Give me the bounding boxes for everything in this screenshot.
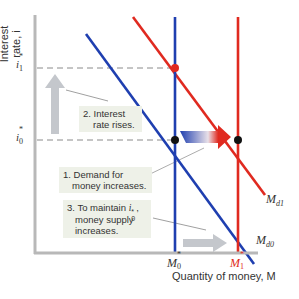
tick-m1-sup: * bbox=[240, 250, 244, 259]
y-axis-title-line1: Interest bbox=[0, 4, 10, 84]
tick-i1: i*1 bbox=[16, 58, 19, 70]
tick-m0: M*0 bbox=[167, 256, 177, 271]
point-m0-i0 bbox=[171, 136, 179, 144]
tick-i0-sub: 0 bbox=[19, 137, 23, 146]
tick-m1-base: M bbox=[230, 256, 240, 270]
note3-line3: increases. bbox=[67, 225, 147, 236]
tick-m0-sup: * bbox=[177, 250, 181, 259]
supply-increase-arrow bbox=[183, 234, 227, 252]
tick-i0: i*0 bbox=[16, 131, 19, 143]
tick-i1-sub: 1 bbox=[19, 64, 23, 73]
point-m0-i1 bbox=[171, 64, 179, 72]
tick-m0-base: M bbox=[167, 256, 177, 270]
md0-label-base: M bbox=[256, 233, 266, 247]
note-interest-rate-rises: 2. Interest rate rises. bbox=[79, 106, 142, 132]
leader-line-2 bbox=[66, 90, 108, 101]
x-axis-title: Quantity of money, M bbox=[172, 270, 276, 282]
money-market-diagram bbox=[0, 0, 299, 299]
demand-shift-arrow bbox=[180, 125, 231, 149]
md1-label-sub: d1 bbox=[276, 199, 284, 208]
tick-m1: M*1 bbox=[230, 256, 240, 271]
note3-line1: 3. To maintain i*0, bbox=[67, 202, 147, 214]
y-axis-title: Interest rate, i bbox=[0, 4, 12, 84]
note3-comma: , bbox=[136, 202, 139, 213]
note3-sub: 0 bbox=[131, 213, 135, 224]
leader-line-3 bbox=[153, 218, 206, 230]
note-money-supply-increases: 3. To maintain i*0, money supply increas… bbox=[63, 200, 151, 238]
md1-curve bbox=[133, 17, 265, 195]
note3-line1-text: 3. To maintain bbox=[67, 202, 129, 213]
md0-label-sub: d0 bbox=[266, 240, 274, 249]
note2-line2: rate rises. bbox=[83, 119, 138, 130]
tick-i1-sup: * bbox=[19, 52, 23, 61]
md0-label: Md0 bbox=[256, 233, 274, 249]
note-demand-increases: 1. Demand for money increases. bbox=[59, 167, 152, 193]
rate-rise-arrow bbox=[45, 74, 65, 134]
note1-line1: 1. Demand for bbox=[63, 169, 148, 180]
point-m1-i0 bbox=[234, 136, 242, 144]
note1-line2: money increases. bbox=[63, 180, 148, 191]
md1-label: Md1 bbox=[266, 192, 284, 208]
md1-label-base: M bbox=[266, 192, 276, 206]
note2-line1: 2. Interest bbox=[83, 108, 138, 119]
tick-i0-sup: * bbox=[19, 125, 23, 134]
